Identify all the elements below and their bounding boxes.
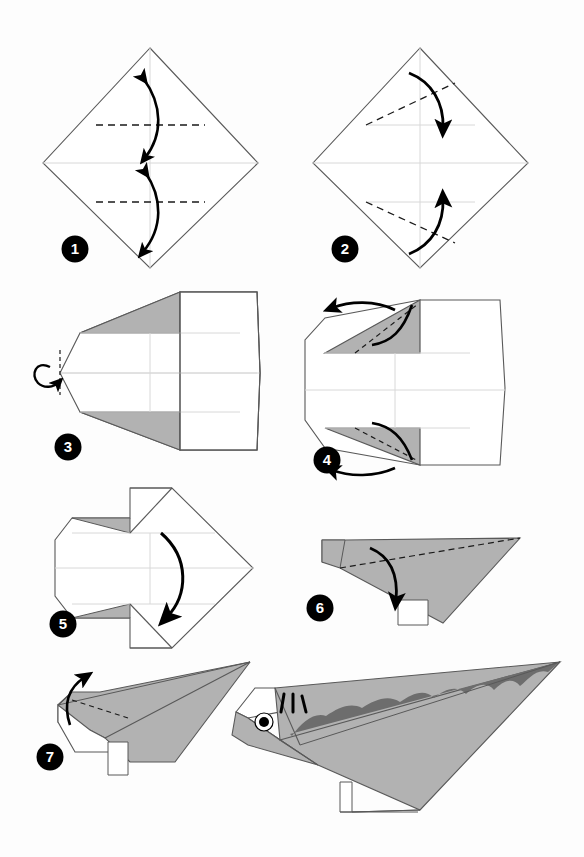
step6-leg-tab bbox=[398, 600, 428, 625]
eye-pupil bbox=[259, 717, 269, 727]
step-badge-6-number: 6 bbox=[316, 599, 324, 616]
origami-instruction-page: 1 2 3 bbox=[0, 0, 584, 857]
step-4-figure: 4 bbox=[305, 300, 505, 475]
final-leg-front bbox=[340, 782, 352, 812]
step-badge-5-number: 5 bbox=[59, 615, 67, 632]
step-badge-1-number: 1 bbox=[71, 240, 79, 257]
step-badge-2-number: 2 bbox=[341, 240, 349, 257]
step-badge-3-number: 3 bbox=[64, 438, 72, 455]
step-badge-7-number: 7 bbox=[46, 748, 54, 765]
step3-right-section bbox=[180, 292, 260, 450]
origami-diagram: 1 2 3 bbox=[0, 0, 584, 857]
step-badge-4-number: 4 bbox=[323, 451, 332, 468]
step7-leg-tab bbox=[108, 742, 128, 775]
